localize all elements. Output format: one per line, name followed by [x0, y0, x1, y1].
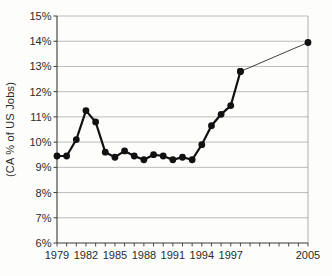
y-tick-label: 15% — [29, 10, 51, 22]
data-point — [237, 68, 244, 75]
y-tick-label: 14% — [29, 35, 51, 47]
data-point — [112, 154, 119, 161]
data-point — [63, 153, 70, 160]
data-point — [131, 153, 138, 160]
data-point — [102, 149, 109, 156]
y-tick-label: 12% — [29, 86, 51, 98]
data-point — [218, 111, 225, 118]
data-point — [189, 156, 196, 163]
x-tick-label: 1985 — [103, 249, 127, 261]
data-point — [150, 151, 157, 158]
line-chart: 6%7%8%9%10%11%12%13%14%15%19791982198519… — [0, 0, 332, 276]
data-point — [208, 122, 215, 129]
data-point — [198, 141, 205, 148]
data-point — [54, 153, 61, 160]
projection-line — [240, 42, 308, 71]
y-tick-label: 13% — [29, 60, 51, 72]
series-layer — [54, 39, 312, 163]
y-tick-label: 9% — [36, 161, 52, 173]
series-line — [57, 71, 240, 159]
data-point — [92, 119, 99, 126]
x-tick-label: 1988 — [132, 249, 156, 261]
data-point — [169, 156, 176, 163]
y-tick-label: 10% — [29, 136, 51, 148]
x-tick-label: 1979 — [45, 249, 69, 261]
data-point — [160, 153, 167, 160]
gridlines-layer — [57, 16, 308, 218]
x-tick-label: 1991 — [161, 249, 185, 261]
y-axis-title: (CA % of US Jobs) — [4, 82, 16, 177]
chart-image: 6%7%8%9%10%11%12%13%14%15%19791982198519… — [0, 0, 332, 276]
y-tick-label: 6% — [36, 237, 52, 249]
y-tick-label: 8% — [36, 187, 52, 199]
y-tick-label: 11% — [30, 111, 51, 123]
data-point — [73, 136, 80, 143]
data-point — [227, 102, 234, 109]
axes-layer — [54, 16, 309, 247]
data-point — [140, 156, 147, 163]
x-tick-label: 1982 — [74, 249, 98, 261]
data-point — [121, 148, 128, 155]
x-tick-label: 1997 — [219, 249, 243, 261]
tick-labels-layer: 6%7%8%9%10%11%12%13%14%15%19791982198519… — [29, 10, 320, 261]
x-tick-label: 1994 — [190, 249, 214, 261]
y-tick-label: 7% — [36, 212, 52, 224]
data-point — [179, 154, 186, 161]
x-tick-label: 2005 — [296, 249, 320, 261]
data-point — [83, 107, 90, 114]
data-point — [305, 39, 312, 46]
